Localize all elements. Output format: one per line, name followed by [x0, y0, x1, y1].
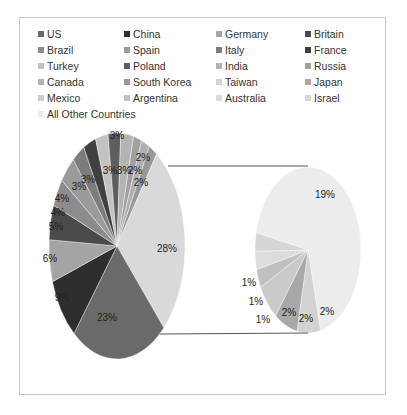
data-label: 3% [81, 174, 96, 185]
data-label: 2% [134, 177, 149, 188]
connector-line-bottom [160, 333, 308, 334]
data-label: 3% [117, 165, 132, 176]
data-label: 1% [242, 277, 257, 288]
data-label: 19% [315, 189, 335, 200]
data-label: 4% [55, 193, 70, 204]
data-label: 5% [49, 221, 64, 232]
data-label: 1% [256, 314, 271, 325]
data-label: 2% [299, 313, 314, 324]
data-label: 2% [136, 152, 151, 163]
data-label: 2% [320, 306, 335, 317]
data-label: 3% [110, 130, 125, 141]
pie-of-pie-chart: 3%2%2%2%28%23%9%6%5%4%4%3%3%3%3%19%2%2%2… [0, 0, 407, 415]
data-label: 1% [249, 296, 264, 307]
data-label: 6% [43, 253, 58, 264]
data-label: 2% [282, 307, 297, 318]
data-label: 9% [55, 292, 70, 303]
data-label: 3% [103, 165, 118, 176]
data-label: 4% [51, 207, 66, 218]
secondary-pie [255, 167, 361, 333]
data-label: 28% [157, 243, 177, 254]
data-label: 23% [97, 312, 117, 323]
